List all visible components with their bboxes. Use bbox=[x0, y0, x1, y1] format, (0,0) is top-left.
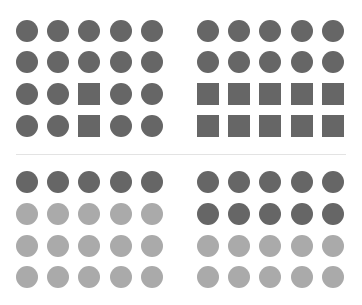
dark-circle-icon bbox=[291, 203, 313, 225]
dark-circle-icon bbox=[259, 20, 281, 42]
dark-circle-icon bbox=[259, 51, 281, 73]
light-circle-icon bbox=[78, 203, 100, 225]
dark-circle-icon bbox=[322, 51, 344, 73]
light-circle-icon bbox=[197, 266, 219, 288]
dark-circle-icon bbox=[16, 51, 38, 73]
dark-circle-icon bbox=[110, 83, 132, 105]
dark-circle-icon bbox=[16, 20, 38, 42]
light-circle-icon bbox=[141, 266, 163, 288]
dark-square-icon bbox=[78, 83, 100, 105]
dark-circle-icon bbox=[141, 83, 163, 105]
dark-circle-icon bbox=[16, 115, 38, 137]
dark-square-icon bbox=[228, 83, 250, 105]
light-circle-icon bbox=[110, 266, 132, 288]
dark-circle-icon bbox=[322, 20, 344, 42]
dark-circle-icon bbox=[259, 171, 281, 193]
dark-circle-icon bbox=[110, 20, 132, 42]
light-circle-icon bbox=[47, 235, 69, 257]
gestalt-similarity-figure bbox=[0, 0, 362, 305]
dark-circle-icon bbox=[16, 171, 38, 193]
dark-square-icon bbox=[322, 83, 344, 105]
light-circle-icon bbox=[141, 203, 163, 225]
dark-circle-icon bbox=[291, 51, 313, 73]
dark-circle-icon bbox=[47, 115, 69, 137]
dark-circle-icon bbox=[291, 20, 313, 42]
light-circle-icon bbox=[47, 203, 69, 225]
light-circle-icon bbox=[228, 235, 250, 257]
light-circle-icon bbox=[110, 203, 132, 225]
dark-circle-icon bbox=[197, 20, 219, 42]
light-circle-icon bbox=[16, 266, 38, 288]
light-circle-icon bbox=[291, 266, 313, 288]
light-circle-icon bbox=[291, 235, 313, 257]
dark-square-icon bbox=[228, 115, 250, 137]
dark-circle-icon bbox=[141, 20, 163, 42]
dark-circle-icon bbox=[110, 171, 132, 193]
dark-circle-icon bbox=[197, 203, 219, 225]
light-circle-icon bbox=[47, 266, 69, 288]
light-circle-icon bbox=[197, 235, 219, 257]
dark-square-icon bbox=[259, 83, 281, 105]
dark-circle-icon bbox=[228, 203, 250, 225]
dark-square-icon bbox=[78, 115, 100, 137]
dark-square-icon bbox=[197, 83, 219, 105]
dark-square-icon bbox=[197, 115, 219, 137]
dark-circle-icon bbox=[228, 51, 250, 73]
dark-circle-icon bbox=[110, 115, 132, 137]
light-circle-icon bbox=[78, 235, 100, 257]
dark-circle-icon bbox=[259, 203, 281, 225]
dark-circle-icon bbox=[322, 203, 344, 225]
dark-circle-icon bbox=[47, 20, 69, 42]
dark-circle-icon bbox=[78, 51, 100, 73]
dark-circle-icon bbox=[78, 20, 100, 42]
light-circle-icon bbox=[16, 203, 38, 225]
light-circle-icon bbox=[259, 266, 281, 288]
dark-circle-icon bbox=[47, 83, 69, 105]
dark-circle-icon bbox=[141, 51, 163, 73]
dark-circle-icon bbox=[291, 171, 313, 193]
dark-square-icon bbox=[291, 115, 313, 137]
dark-square-icon bbox=[291, 83, 313, 105]
dark-circle-icon bbox=[197, 171, 219, 193]
light-circle-icon bbox=[322, 235, 344, 257]
dark-circle-icon bbox=[228, 20, 250, 42]
light-circle-icon bbox=[259, 235, 281, 257]
light-circle-icon bbox=[228, 266, 250, 288]
dark-circle-icon bbox=[47, 171, 69, 193]
dark-circle-icon bbox=[47, 51, 69, 73]
dark-circle-icon bbox=[78, 171, 100, 193]
dark-circle-icon bbox=[141, 115, 163, 137]
horizontal-divider bbox=[16, 154, 346, 155]
dark-square-icon bbox=[322, 115, 344, 137]
light-circle-icon bbox=[16, 235, 38, 257]
light-circle-icon bbox=[141, 235, 163, 257]
dark-circle-icon bbox=[197, 51, 219, 73]
dark-circle-icon bbox=[110, 51, 132, 73]
light-circle-icon bbox=[110, 235, 132, 257]
dark-circle-icon bbox=[16, 83, 38, 105]
dark-square-icon bbox=[259, 115, 281, 137]
dark-circle-icon bbox=[141, 171, 163, 193]
dark-circle-icon bbox=[228, 171, 250, 193]
light-circle-icon bbox=[322, 266, 344, 288]
dark-circle-icon bbox=[322, 171, 344, 193]
light-circle-icon bbox=[78, 266, 100, 288]
